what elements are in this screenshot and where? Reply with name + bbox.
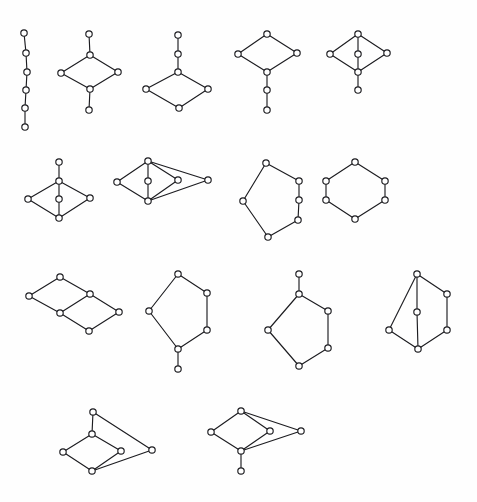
graph-vertex [60,449,66,455]
graph-vertex [25,196,31,202]
graph-vertex [296,197,302,203]
graph-edge [90,72,118,89]
graph-vertex [23,87,29,93]
graph-edge [60,294,90,313]
graph-vertex [118,448,124,454]
graph-vertex [298,428,304,434]
graph-figure-canvas [0,0,477,502]
graph-vertex [22,105,28,111]
graph-vertex [264,87,270,93]
graph-edge [146,72,178,89]
graph-vertex [267,428,273,434]
graph-diamond-pendant-top-apex-right [60,409,155,474]
graph-edge [358,34,387,53]
graph-vertex [382,197,388,203]
graph-vertex [87,195,93,201]
graph-edge [243,201,268,237]
graph-vertex [294,50,300,56]
graph-vertex [56,215,62,221]
graph-edge [243,163,266,201]
graph-edge [299,348,328,366]
graph-vertex [90,409,96,415]
graph-vertex [265,327,271,333]
graph-vertex [26,293,32,299]
graphs-layer [21,30,450,474]
graph-edge [355,200,385,219]
graph-theta-graph-extended [114,158,211,204]
graph-edge [90,55,118,72]
graph-cycle5-pendant-top [265,271,331,369]
graph-edge [60,277,90,294]
graph-edge [149,274,178,311]
graph-edges [24,33,27,127]
graph-vertex [325,345,331,351]
graph-vertices [143,32,211,111]
graph-vertex [352,159,358,165]
graph-edges [61,34,118,110]
graph-edge [211,432,241,451]
graph-edge [358,53,387,72]
graph-edges [29,277,119,331]
graph-vertex [175,366,181,372]
graph-edge [330,54,358,72]
graph-edge [266,163,299,181]
graph-edge [90,294,119,312]
graph-vertex [296,291,302,297]
graph-edge [146,89,179,108]
graph-cycle6-hexagon [323,159,388,222]
graph-vertices [323,159,388,222]
graph-vertex [149,447,155,453]
graph-edge [29,296,60,313]
graph-edge [61,55,90,73]
graph-edge [92,434,121,451]
graph-vertex [24,69,30,75]
graph-vertex [175,69,181,75]
graph-edge [29,277,60,296]
graph-vertex [56,178,62,184]
graph-edge [268,330,299,366]
graph-diamond-apex-right-pendant-bottom [208,408,304,474]
graph-edges [149,274,207,369]
graph-vertex [414,271,420,277]
graph-vertex [355,51,361,57]
graph-vertex [146,308,152,314]
graph-edge [178,330,207,349]
graph-vertex [238,408,244,414]
graph-edge [63,452,92,471]
graph-edge [238,54,267,72]
graph-path-p6 [21,30,30,130]
graph-edge [89,312,119,331]
graph-vertex [23,50,29,56]
graph-vertex [87,291,93,297]
graph-vertex [204,327,210,333]
graph-edge [326,200,355,219]
graph-vertex [384,50,390,56]
graph-vertices [60,409,155,474]
graph-vertex [296,363,302,369]
graph-edge [117,182,148,201]
graph-edges [63,412,152,471]
graph-vertex [355,69,361,75]
graph-edge [389,274,417,330]
graph-vertex [57,274,63,280]
graph-edge [63,434,92,452]
graph-vertex [145,198,151,204]
graph-edge [61,73,90,89]
graph-vertices [114,158,211,204]
graph-edge [148,161,178,180]
graph-vertex [56,196,62,202]
graph-edge [117,161,148,182]
graph-vertex [205,86,211,92]
graph-vertex [176,105,182,111]
graph-cycle4-two-pendants [58,31,121,113]
graph-vertex [56,159,62,165]
graph-cycle4-center-vertex-pendant [327,31,390,93]
graph-edge [355,162,385,181]
graph-vertex [175,271,181,277]
graph-vertex [323,178,329,184]
graph-edge [178,72,208,89]
graph-edge [417,274,447,294]
graph-vertex [89,431,95,437]
graph-vertex [386,327,392,333]
graph-cycle4-path2-tail-bottom [235,31,300,113]
